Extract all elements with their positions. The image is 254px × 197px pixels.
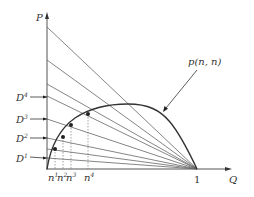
n4-label: n4 <box>84 171 94 183</box>
point-n3 <box>69 123 73 127</box>
d2-label: D2 <box>15 132 28 144</box>
d3-label: D3 <box>15 113 28 125</box>
x-tick-label-1: 1 <box>194 174 200 185</box>
point-n2 <box>61 135 65 139</box>
d-labels: D4 D3 D2 D1 <box>15 91 48 164</box>
d3-label-group: D3 <box>15 113 48 125</box>
d4-label-group: D4 <box>15 91 48 103</box>
n-labels: n1 n2 n3 n4 <box>48 171 94 183</box>
curve-label: p(n, n) <box>188 56 222 67</box>
demand-line <box>47 96 197 169</box>
d1-arrow <box>30 157 44 158</box>
point-n4 <box>86 112 90 116</box>
d1-label: D1 <box>15 152 28 164</box>
d1-label-group: D1 <box>15 152 48 164</box>
curve-pointer <box>166 70 197 108</box>
point-n1 <box>53 147 57 151</box>
x-axis-arrow-icon <box>225 167 232 171</box>
demand-line <box>47 138 197 169</box>
x-axis-label: Q <box>229 174 237 185</box>
demand-line <box>47 158 197 169</box>
price-quantity-diagram: P Q 1 D4 D3 <box>0 0 254 197</box>
demand-line <box>47 60 197 169</box>
demand-line <box>47 149 197 169</box>
n3-label: n3 <box>66 171 76 183</box>
y-axis-label: P <box>35 12 43 23</box>
y-axis-arrow-icon <box>45 12 49 19</box>
d4-label: D4 <box>15 91 28 103</box>
curve-annotation: p(n, n) <box>163 56 222 112</box>
d2-label-group: D2 <box>15 132 48 144</box>
